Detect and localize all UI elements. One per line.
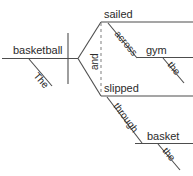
object-1-modifier-label: the — [165, 59, 183, 77]
predicate-1-label: sailed — [104, 8, 133, 20]
preposition-1-label: across — [112, 28, 139, 58]
conjunction-label: and — [89, 53, 100, 70]
predicate-2-label: slipped — [104, 82, 139, 94]
subject-modifier-label: The — [31, 70, 51, 91]
sentence-diagram: basketball The and sailed across gym the… — [0, 0, 193, 176]
object-2-modifier-label: the — [160, 145, 178, 163]
object-2-label: basket — [147, 130, 179, 142]
preposition-2-label: through — [111, 101, 140, 135]
predicate-fork-upper — [78, 22, 101, 59]
subject-label: basketball — [13, 44, 63, 56]
object-1-label: gym — [146, 44, 167, 56]
diagram-canvas: basketball The and sailed across gym the… — [0, 0, 193, 176]
